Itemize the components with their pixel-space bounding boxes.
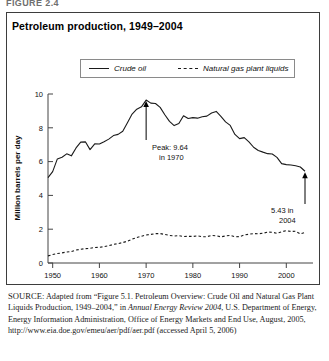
x-tick-label: 1970 (138, 271, 155, 280)
y-tick-label: 6 (39, 157, 43, 166)
chart-plot: 0246810 195019601970198019902000 Million… (0, 0, 329, 290)
x-tick-label: 1990 (231, 271, 248, 280)
y-tick-label: 0 (39, 259, 43, 268)
chart-axes (48, 94, 313, 263)
y-tick-label: 4 (39, 191, 43, 200)
x-tick-label: 1980 (185, 271, 202, 280)
annotation-peak: Peak: 9.64 in 1970 (143, 101, 188, 162)
annotation-peak-line1: Peak: 9.64 (152, 143, 188, 152)
source-prefix: SOURCE: (8, 291, 44, 301)
annotation-peak-line2: in 1970 (159, 153, 184, 162)
annotation-end-value: 5.43 in 2004 (271, 172, 308, 225)
x-tick-label: 1960 (91, 271, 108, 280)
annotation-end-line2: 2004 (279, 216, 296, 225)
source-italic-title: Annual Energy Review 2004 (128, 303, 221, 312)
y-tick-label: 10 (35, 90, 43, 99)
y-tick-label: 8 (39, 124, 43, 133)
annotation-end-line1: 5.43 in (271, 206, 294, 215)
series-line-ngpl (48, 231, 305, 256)
y-tick-label: 2 (39, 225, 43, 234)
series-line-crude-oil (48, 100, 305, 178)
y-axis-ticks: 0246810 (35, 90, 53, 268)
source-note: SOURCE: Adapted from “Figure 5.1. Petrol… (8, 291, 322, 337)
x-axis-ticks: 195019601970198019902000 (44, 263, 294, 280)
x-tick-label: 2000 (278, 271, 295, 280)
y-axis-title: Million barrels per day (13, 135, 22, 220)
x-tick-label: 1950 (44, 271, 61, 280)
